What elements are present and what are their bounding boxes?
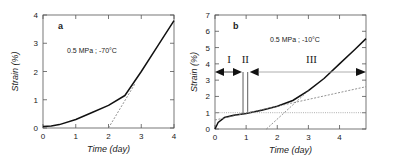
series-line: [43, 21, 174, 127]
y-tick-label: 5: [206, 44, 211, 53]
y-tick-label: 0: [206, 125, 211, 134]
x-tick-label: 2: [275, 133, 280, 142]
x-tick-label: 0: [41, 132, 46, 141]
x-tick-label: 4: [172, 132, 177, 141]
x-axis-label: Time (day): [269, 145, 312, 155]
y-tick-label: 7: [206, 11, 211, 20]
y-tick-label: 3: [34, 39, 39, 48]
x-axis-label: Time (day): [87, 144, 130, 154]
y-tick-label: 4: [34, 11, 39, 20]
panel-label: a: [58, 21, 64, 31]
y-tick-label: 6: [206, 27, 211, 36]
y-axis-label: Strain (%): [189, 52, 199, 92]
arrow-left-icon: [250, 68, 259, 76]
arrow-left-icon: [215, 68, 224, 76]
y-tick-label: 2: [34, 68, 39, 77]
series-line: [266, 91, 308, 129]
x-tick-label: 2: [106, 132, 111, 141]
y-tick-label: 3: [206, 76, 211, 85]
chart-panel-b: 0123401234567Time (day)Strain (%)b0.5 MP…: [189, 11, 366, 155]
x-tick-label: 3: [139, 132, 144, 141]
x-tick-label: 4: [337, 133, 342, 142]
stage-label: I: [227, 53, 231, 65]
stage-label: III: [306, 53, 317, 65]
creep-charts: 0123401234Time (day)Strain (%)a0.5 MPa ;…: [0, 0, 404, 162]
x-tick-label: 1: [244, 133, 249, 142]
plot-frame: [43, 15, 174, 128]
arrow-right-icon: [356, 68, 366, 76]
arrow-right-icon: [233, 68, 242, 76]
x-tick-label: 3: [306, 133, 311, 142]
stage-label: II: [242, 53, 250, 65]
y-axis-label: Strain (%): [10, 51, 20, 91]
chart-panel-a: 0123401234Time (day)Strain (%)a0.5 MPa ;…: [10, 11, 177, 154]
condition-annotation: 0.5 MPa ; -10°C: [270, 36, 320, 43]
y-tick-label: 1: [206, 109, 211, 118]
series-line: [109, 84, 135, 128]
y-tick-label: 2: [206, 92, 211, 101]
x-tick-label: 1: [74, 132, 79, 141]
y-tick-label: 0: [34, 124, 39, 133]
series-line: [215, 39, 366, 129]
x-tick-label: 0: [213, 133, 218, 142]
y-tick-label: 4: [206, 60, 211, 69]
panel-label: b: [233, 21, 239, 31]
condition-annotation: 0.5 MPa ; -70°C: [67, 47, 117, 54]
y-tick-label: 1: [34, 96, 39, 105]
